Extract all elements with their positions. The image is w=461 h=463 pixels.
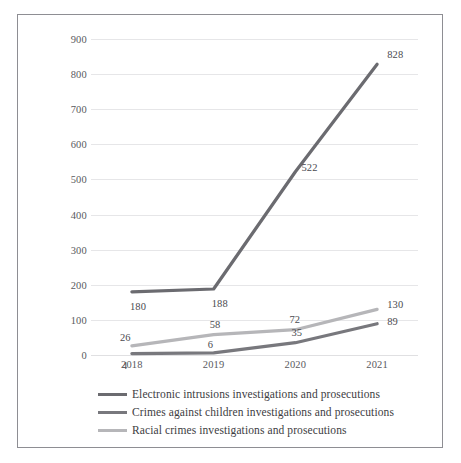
data-label-s0-2020: 522 — [301, 162, 317, 173]
data-label-s0-2021: 828 — [387, 49, 403, 60]
data-label-s2-2018: 26 — [120, 332, 131, 343]
legend-swatch-icon-1 — [98, 411, 127, 414]
y-tick-label-300: 300 — [47, 244, 87, 255]
chart-legend: Electronic intrusions investigations and… — [18, 385, 444, 447]
data-label-s1-2020: 35 — [291, 327, 302, 338]
data-label-s2-2021: 130 — [387, 299, 403, 310]
series-line-2 — [132, 309, 377, 346]
legend-item-0[interactable]: Electronic intrusions investigations and… — [98, 387, 444, 401]
chart-figure-frame: 0100200300400500600700800900 18018852282… — [17, 14, 443, 448]
legend-swatch-icon-2 — [98, 429, 127, 432]
data-label-s1-2019: 6 — [208, 339, 213, 350]
y-tick-label-500: 500 — [47, 174, 87, 185]
y-tick-label-400: 400 — [47, 209, 87, 220]
series-line-1 — [132, 324, 377, 354]
y-tick-label-600: 600 — [47, 139, 87, 150]
legend-label-2: Racial crimes investigations and prosecu… — [132, 424, 347, 437]
cropped-heading-fragment — [0, 0, 461, 11]
x-tick-label-2018: 2018 — [121, 359, 143, 370]
legend-item-2[interactable]: Racial crimes investigations and prosecu… — [98, 423, 444, 437]
x-tick-label-2021: 2021 — [366, 359, 388, 370]
data-label-s1-2021: 89 — [387, 316, 398, 327]
x-tick-label-2019: 2019 — [203, 359, 225, 370]
legend-label-0: Electronic intrusions investigations and… — [132, 388, 380, 401]
x-axis-tick-labels: 2018201920202021 — [91, 359, 418, 377]
data-label-s2-2019: 58 — [210, 319, 221, 330]
gridline-0 — [91, 355, 418, 356]
series-line-0 — [132, 64, 377, 292]
data-label-s2-2020: 72 — [289, 314, 300, 325]
legend-swatch-icon-0 — [98, 393, 127, 396]
y-tick-label-900: 900 — [47, 34, 87, 45]
data-label-s0-2019: 188 — [212, 298, 228, 309]
plot-wrapper: 0100200300400500600700800900 18018852282… — [18, 15, 444, 383]
data-label-s0-2018: 180 — [130, 301, 146, 312]
y-tick-label-700: 700 — [47, 104, 87, 115]
legend-item-1[interactable]: Crimes against children investigations a… — [98, 405, 444, 419]
legend-label-1: Crimes against children investigations a… — [132, 406, 394, 419]
y-tick-label-200: 200 — [47, 279, 87, 290]
x-tick-label-2020: 2020 — [284, 359, 306, 370]
plot-area: 180188522828463589265872130 — [91, 39, 418, 355]
y-tick-label-100: 100 — [47, 314, 87, 325]
y-tick-label-800: 800 — [47, 69, 87, 80]
y-axis-tick-labels: 0100200300400500600700800900 — [43, 39, 87, 355]
y-tick-label-0: 0 — [47, 350, 87, 361]
